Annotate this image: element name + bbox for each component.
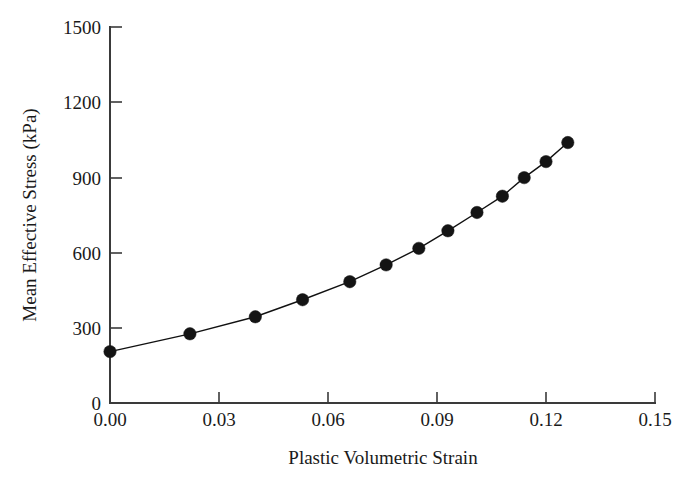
data-point-marker	[471, 206, 483, 218]
y-tick-label-900: 900	[73, 168, 102, 189]
x-tick-label-003: 0.03	[202, 409, 235, 430]
x-tick-label-009: 0.09	[420, 409, 453, 430]
data-point-marker	[496, 190, 508, 202]
x-axis-title: Plastic Volumetric Strain	[288, 447, 478, 468]
data-series	[104, 136, 574, 357]
x-tick-label-015: 0.15	[638, 409, 671, 430]
data-point-marker	[249, 311, 261, 323]
data-point-marker	[380, 259, 392, 271]
x-tick-label-000: 0.00	[93, 409, 126, 430]
x-tick-label-012: 0.12	[529, 409, 562, 430]
chart-figure: 1500 1200 900 600 300 0 0.00 0.03 0.06 0…	[0, 0, 696, 492]
data-point-marker	[413, 242, 425, 254]
y-tick-label-1200: 1200	[63, 92, 101, 113]
data-point-marker	[562, 136, 574, 148]
y-tick-label-1500: 1500	[63, 17, 101, 38]
data-point-marker	[104, 345, 116, 357]
data-line	[110, 143, 568, 352]
data-point-marker	[344, 275, 356, 287]
plot-area: 1500 1200 900 600 300 0 0.00 0.03 0.06 0…	[0, 0, 696, 492]
data-point-marker	[442, 225, 454, 237]
y-axis-title: Mean Effective Stress (kPa)	[19, 108, 41, 321]
x-tick-label-006: 0.06	[311, 409, 344, 430]
data-point-marker	[296, 294, 308, 306]
y-tick-label-300: 300	[73, 318, 102, 339]
data-point-marker	[518, 171, 530, 183]
data-point-marker	[540, 155, 552, 167]
y-tick-label-600: 600	[73, 243, 102, 264]
data-point-marker	[184, 328, 196, 340]
